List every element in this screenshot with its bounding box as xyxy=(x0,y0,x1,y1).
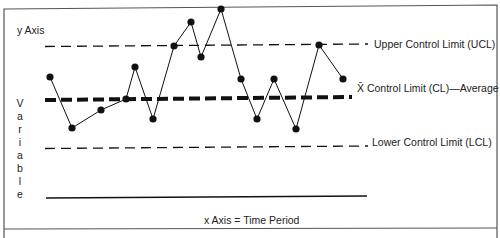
variable-letter: a xyxy=(17,149,23,161)
data-point xyxy=(217,5,224,12)
data-point xyxy=(149,115,156,122)
data-point xyxy=(253,115,260,122)
xbar-symbol: X̄ xyxy=(357,82,364,94)
data-point xyxy=(270,75,277,82)
ucl-label: Upper Control Limit (UCL) xyxy=(374,38,495,50)
x-axis-label: x Axis = Time Period xyxy=(204,214,300,226)
cl-label-text: Control Limit (CL)—Average xyxy=(364,82,499,94)
variable-letter: r xyxy=(18,123,22,135)
data-point xyxy=(131,63,138,70)
data-point xyxy=(237,75,244,82)
cl-line xyxy=(45,97,352,100)
cl-label: X̄ Control Limit (CL)—Average xyxy=(357,82,499,94)
variable-letter: V xyxy=(16,97,23,109)
variable-letter: l xyxy=(19,175,21,187)
data-point xyxy=(97,106,104,113)
variable-vertical-label: Variable xyxy=(16,97,23,200)
data-point xyxy=(292,125,299,132)
data-point xyxy=(170,42,177,49)
data-point xyxy=(197,53,204,60)
data-point xyxy=(46,73,53,80)
variable-letter: i xyxy=(19,136,21,148)
lcl-label: Lower Control Limit (LCL) xyxy=(372,136,492,148)
data-point xyxy=(315,41,322,48)
variable-letter: a xyxy=(17,110,23,122)
data-series xyxy=(46,5,346,132)
y-axis-label: y Axis xyxy=(17,24,44,36)
data-point xyxy=(339,75,346,82)
lcl-line xyxy=(45,146,368,149)
variable-letter: e xyxy=(17,188,23,200)
x-axis-line xyxy=(46,196,367,198)
data-point xyxy=(187,18,194,25)
series-line xyxy=(50,9,343,129)
variable-letter: b xyxy=(17,162,23,174)
data-point xyxy=(122,95,129,102)
chart-frame-bottom xyxy=(4,228,497,229)
control-chart: y Axis Variable Upper Control Limit (UCL… xyxy=(0,0,500,238)
data-point xyxy=(68,124,75,131)
